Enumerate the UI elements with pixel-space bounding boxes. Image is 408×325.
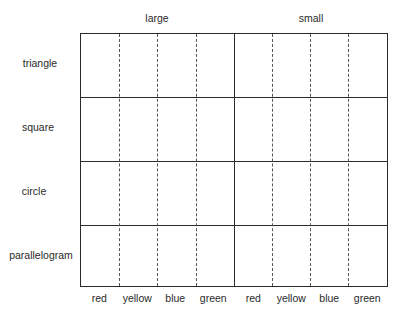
column-label-blue: blue <box>310 292 349 304</box>
row-label-triangle: triangle <box>0 57 80 69</box>
column-divider-dashed <box>348 34 349 286</box>
row-label-parallelogram: parallelogram <box>1 249 81 261</box>
group-label-small: small <box>234 12 388 24</box>
group-divider <box>234 34 235 286</box>
column-divider-dashed <box>157 34 158 286</box>
row-label-square: square <box>0 121 78 133</box>
row-label-circle: circle <box>0 185 74 197</box>
column-divider-dashed <box>310 34 311 286</box>
column-label-red: red <box>80 292 119 304</box>
column-label-yellow: yellow <box>118 292 157 304</box>
column-label-yellow: yellow <box>272 292 311 304</box>
classification-grid <box>80 33 388 287</box>
column-divider-dashed <box>196 34 197 286</box>
column-label-green: green <box>194 292 233 304</box>
column-label-blue: blue <box>156 292 195 304</box>
column-label-green: green <box>348 292 387 304</box>
group-label-large: large <box>80 12 234 24</box>
column-divider-dashed <box>272 34 273 286</box>
column-divider-dashed <box>119 34 120 286</box>
column-label-red: red <box>234 292 273 304</box>
